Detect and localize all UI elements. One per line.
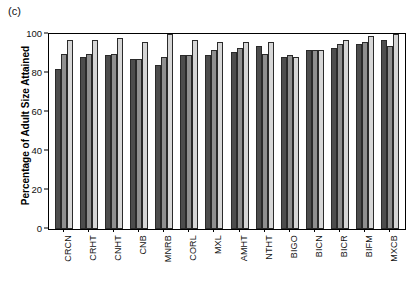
bar-group [378,34,403,229]
x-tick-slot: BIFM [352,229,377,282]
y-tick-label: 60 [31,106,42,117]
x-tick-slot: MXCB [377,229,402,282]
x-tick-mark [88,229,89,232]
x-tick-slot: NTHT [251,229,276,282]
y-axis: 020406080100 [0,33,48,228]
bar-group [227,34,252,229]
x-tick-mark [213,229,214,232]
x-tick-slot: BIGO [276,229,301,282]
x-tick-label: AMHT [239,235,249,261]
x-tick-mark [163,229,164,232]
x-tick-mark [63,229,64,232]
x-tick-mark [264,229,265,232]
x-tick-slot: BICN [301,229,326,282]
bar [167,34,173,229]
x-tick-mark [314,229,315,232]
x-tick-slot: MXL [201,229,226,282]
plot-area [48,33,406,230]
y-tick-label: 100 [26,28,42,39]
bar [318,50,324,229]
y-tick-label: 40 [31,145,42,156]
bar [368,36,374,229]
x-tick-label: MXCB [389,235,399,262]
bar-group [126,34,151,229]
bar-group [353,34,378,229]
x-tick-slot: AMHT [226,229,251,282]
bar [67,40,73,229]
x-tick-label: MXL [213,235,223,254]
bar-group [328,34,353,229]
bar [243,42,249,229]
bar-group [277,34,302,229]
x-tick-label: CNB [138,235,148,255]
bar-group [76,34,101,229]
bar-group [302,34,327,229]
bar-groups [49,34,405,229]
x-tick-slot: CORL [176,229,201,282]
x-tick-label: BIFM [364,235,374,257]
x-tick-mark [389,229,390,232]
x-tick-slot: MNRB [151,229,176,282]
bar [293,57,299,229]
x-tick-slot: CNHT [100,229,125,282]
x-tick-label: BICN [314,235,324,257]
x-tick-label: BIGO [289,235,299,258]
x-tick-mark [113,229,114,232]
bar-group [177,34,202,229]
x-tick-mark [239,229,240,232]
x-tick-mark [339,229,340,232]
x-tick-label: MNRB [163,235,173,262]
x-tick-label: NTHT [264,235,274,260]
x-tick-slot: CNB [125,229,150,282]
bar-group [51,34,76,229]
y-tick-label: 20 [31,184,42,195]
x-axis: CRCNCRHTCNHTCNBMNRBCORLMXLAMHTNTHTBIGOBI… [48,229,404,282]
bar-group [101,34,126,229]
x-tick-slot: BICR [327,229,352,282]
panel-label: (c) [8,5,21,17]
x-tick-mark [138,229,139,232]
bar [142,42,148,229]
bar [393,34,399,229]
bar [92,40,98,229]
y-tick-label: 80 [31,67,42,78]
bar-group [202,34,227,229]
bar-group [252,34,277,229]
x-tick-slot: CRCN [50,229,75,282]
y-tick-label: 0 [37,223,42,234]
x-tick-label: CORL [188,235,198,261]
x-tick-slot: CRHT [75,229,100,282]
x-tick-label: CRHT [88,235,98,261]
figure-panel-c: (c) Percentage of Adult Size Attained 02… [0,0,412,282]
bar [268,42,274,229]
x-tick-mark [188,229,189,232]
x-tick-mark [364,229,365,232]
bar [217,42,223,229]
bar-group [152,34,177,229]
x-tick-label: CRCN [63,235,73,262]
bar [343,40,349,229]
bar [117,38,123,229]
x-tick-label: BICR [339,235,349,257]
x-tick-mark [289,229,290,232]
x-tick-label: CNHT [113,235,123,261]
bar [192,40,198,229]
